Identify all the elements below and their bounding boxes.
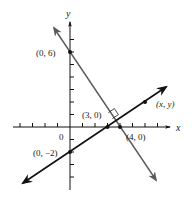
point-0-6 — [68, 50, 72, 54]
point-x-y — [143, 100, 147, 104]
y-axis-label: y — [65, 8, 71, 19]
point-3-0 — [106, 125, 110, 129]
y-axis: y 0 — [59, 8, 74, 190]
point-4-0 — [118, 125, 122, 129]
label-4-0: (4, 0) — [126, 132, 146, 142]
label-x-y: (x, y) — [156, 99, 174, 109]
x-axis-ticks — [20, 123, 158, 127]
label-0-6: (0, 6) — [36, 48, 56, 58]
y-axis-ticks — [70, 40, 74, 178]
coordinate-diagram: x y 0 (0, 6) (3, 0) ( — [0, 0, 194, 200]
point-0-neg2 — [68, 150, 72, 154]
x-axis: x — [13, 122, 181, 133]
label-0-neg2: (0, −2) — [33, 148, 58, 158]
origin-label: 0 — [59, 132, 64, 142]
label-3-0: (3, 0) — [82, 110, 102, 120]
x-axis-label: x — [175, 122, 181, 133]
